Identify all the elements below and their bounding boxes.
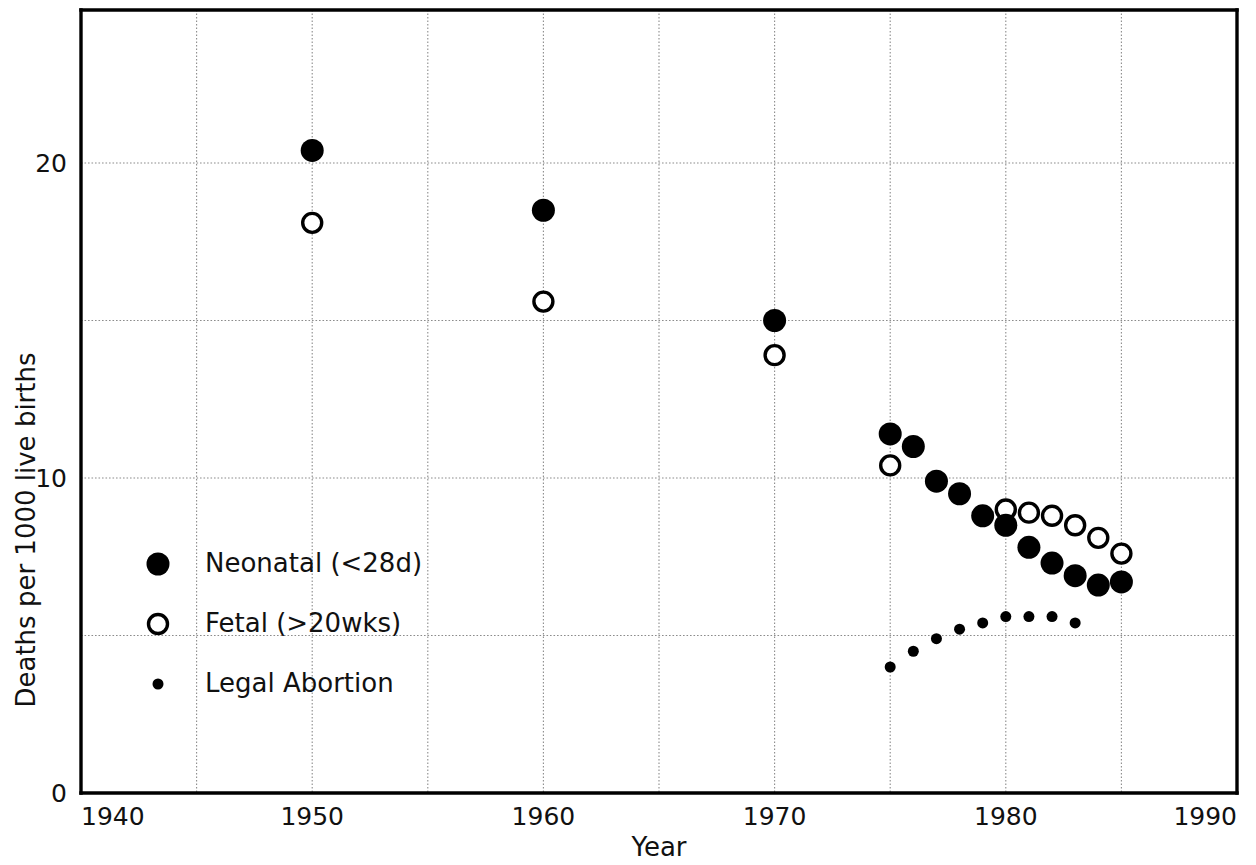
data-point (931, 633, 942, 644)
legend-label: Neonatal (<28d) (205, 548, 422, 578)
legend-item: Legal Abortion (153, 668, 394, 698)
data-point (1017, 536, 1040, 559)
data-point (948, 482, 971, 505)
data-point (1000, 611, 1011, 622)
data-point (1047, 611, 1058, 622)
data-point (902, 435, 925, 458)
data-point (1070, 617, 1081, 628)
data-point (1023, 611, 1034, 622)
series-fetal-20wks (303, 213, 1131, 563)
data-point (954, 624, 965, 635)
legend-marker-icon (153, 679, 164, 690)
x-tick-label: 1960 (512, 802, 576, 831)
legend-label: Fetal (>20wks) (205, 608, 401, 638)
x-tick-label: 1980 (974, 802, 1038, 831)
data-point (765, 346, 784, 365)
data-point (763, 309, 786, 332)
x-tick-label: 1970 (743, 802, 807, 831)
legend-marker-icon (149, 615, 168, 634)
data-point (534, 292, 553, 311)
data-point (908, 646, 919, 657)
data-points (301, 139, 1133, 673)
data-point (1064, 564, 1087, 587)
data-point (1043, 506, 1062, 525)
data-point (879, 422, 902, 445)
data-point (925, 470, 948, 493)
legend-label: Legal Abortion (205, 668, 394, 698)
x-tick-label: 1940 (81, 802, 145, 831)
data-point (303, 213, 322, 232)
data-point (1112, 544, 1131, 563)
data-point (532, 199, 555, 222)
x-axis-ticks: 194019501960197019801990 (81, 802, 1237, 831)
data-point (1110, 570, 1133, 593)
x-axis-title: Year (630, 832, 686, 862)
legend-marker-icon (147, 553, 170, 576)
data-point (977, 617, 988, 628)
data-point (994, 514, 1017, 537)
y-tick-label: 20 (35, 149, 67, 178)
x-tick-label: 1950 (280, 802, 344, 831)
chart-figure: 01020 194019501960197019801990 Deaths pe… (0, 0, 1256, 865)
data-point (881, 456, 900, 475)
chart-legend: Neonatal (<28d)Fetal (>20wks)Legal Abort… (147, 548, 423, 698)
data-point (1019, 503, 1038, 522)
series-legal-abortion (885, 611, 1081, 672)
y-axis-title: Deaths per 1000 live births (11, 352, 41, 707)
data-point (1066, 516, 1085, 535)
data-point (1041, 552, 1064, 575)
y-tick-label: 0 (51, 779, 67, 808)
series-neonatal-28d (301, 139, 1133, 597)
data-point (301, 139, 324, 162)
data-point (1089, 528, 1108, 547)
data-point (1087, 574, 1110, 597)
x-tick-label: 1990 (1173, 802, 1237, 831)
legend-item: Fetal (>20wks) (149, 608, 402, 638)
data-point (971, 504, 994, 527)
data-point (885, 662, 896, 673)
scatter-plot: 01020 194019501960197019801990 Deaths pe… (0, 0, 1256, 865)
legend-item: Neonatal (<28d) (147, 548, 423, 578)
